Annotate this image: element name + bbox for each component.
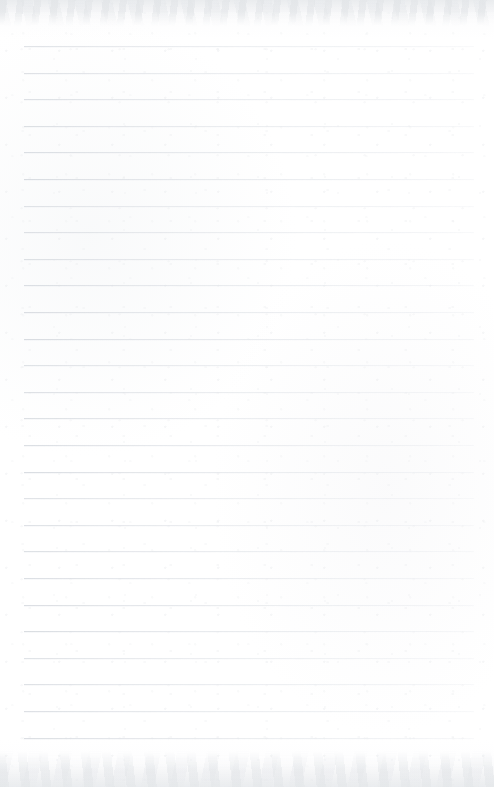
notebook-page bbox=[0, 0, 494, 787]
writing-area[interactable] bbox=[24, 30, 474, 750]
